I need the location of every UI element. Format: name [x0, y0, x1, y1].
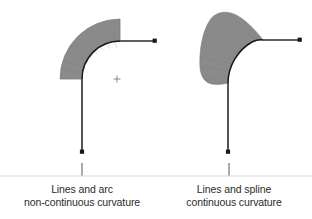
- left-endpoint-dot-bottom: [80, 150, 84, 154]
- left-caption-line1: Lines and arc: [51, 183, 113, 195]
- curvature-comb-figure: Lines and arc non-continuous curvature L…: [0, 0, 312, 219]
- left-endpoint-dot-right: [153, 39, 157, 43]
- figure-canvas: Lines and arc non-continuous curvature L…: [0, 0, 312, 219]
- right-caption-line1: Lines and spline: [197, 183, 272, 195]
- right-caption-line2: continuous curvature: [186, 196, 282, 208]
- left-caption-line2: non-continuous curvature: [24, 196, 140, 208]
- right-endpoint-dot-right: [298, 38, 302, 42]
- right-endpoint-dot-bottom: [226, 150, 230, 154]
